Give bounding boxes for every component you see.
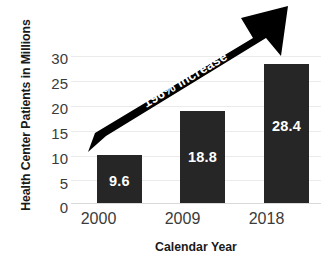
bar-value-2018: 28.4 — [264, 118, 309, 134]
x-axis-title: Calendar Year — [71, 240, 321, 254]
y-tick-label-0: 0 — [42, 200, 68, 215]
x-tick-label-2009: 2009 — [150, 210, 215, 228]
bar-2009[interactable]: 18.8 — [180, 111, 225, 203]
bar-value-2000: 9.6 — [97, 173, 142, 189]
y-axis-title: Health Center Patients in Millions — [19, 15, 33, 215]
y-tick-label-30: 30 — [42, 51, 68, 66]
y-tick-label-25: 25 — [42, 76, 68, 91]
x-tick-label-2000: 2000 — [66, 210, 131, 228]
bar-2000[interactable]: 9.6 — [97, 155, 142, 203]
gridline-30 — [71, 56, 321, 57]
bar-value-2009: 18.8 — [180, 149, 225, 165]
bar-2018[interactable]: 28.4 — [264, 64, 309, 203]
y-tick-label-5: 5 — [42, 176, 68, 191]
y-tick-label-15: 15 — [42, 126, 68, 141]
y-tick-label-10: 10 — [42, 151, 68, 166]
x-tick-label-2018: 2018 — [234, 210, 299, 228]
axis-baseline — [71, 203, 321, 204]
y-tick-label-20: 20 — [42, 101, 68, 116]
y-axis-tick-labels: 30 25 20 15 10 5 0 — [40, 52, 68, 203]
bar-chart: Health Center Patients in Millions 30 25… — [0, 0, 329, 275]
